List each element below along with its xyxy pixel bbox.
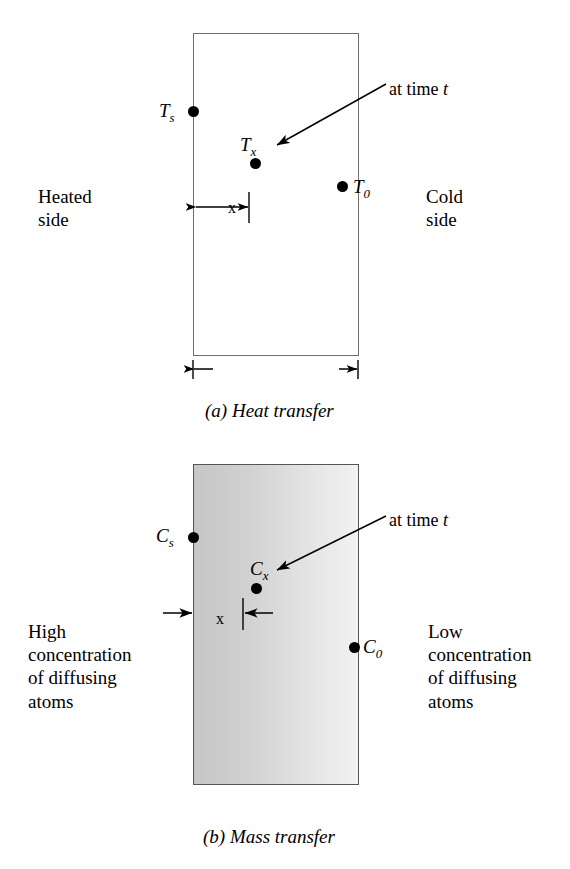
dot-far-concentration	[349, 642, 360, 653]
label-distance-x-mass: x	[216, 610, 224, 628]
figure-canvas: Ts Tx T0 at time t Heated side Cold side…	[0, 0, 570, 869]
label-surface-temperature: Ts	[159, 99, 175, 126]
label-heated-side: Heated side	[38, 185, 92, 231]
annotation-at-time-heat: at time t	[389, 79, 448, 100]
caption-heat-transfer: (a) Heat transfer	[205, 400, 334, 422]
dot-surface-temperature	[188, 106, 199, 117]
label-high-concentration: High concentration of diffusing atoms	[28, 620, 131, 713]
label-distance-x-heat: x	[228, 199, 236, 217]
caption-mass-transfer: (b) Mass transfer	[203, 826, 335, 848]
label-interior-temperature: Tx	[240, 133, 256, 160]
dot-interior-concentration	[251, 583, 262, 594]
label-far-concentration: C0	[363, 635, 382, 662]
label-far-temperature: T0	[353, 175, 370, 202]
dot-interior-temperature	[250, 158, 261, 169]
annotation-at-time-mass: at time t	[389, 510, 448, 531]
label-wall-thickness: wall thickness	[218, 360, 320, 381]
label-low-concentration: Low concentration of diffusing atoms	[428, 620, 531, 713]
wall-rectangle-heat	[193, 33, 359, 356]
dot-surface-concentration	[188, 532, 199, 543]
label-interior-concentration: Cx	[250, 557, 268, 584]
dot-far-temperature	[337, 181, 348, 192]
label-cold-side: Cold side	[426, 185, 463, 231]
label-surface-concentration: Cs	[156, 524, 174, 551]
